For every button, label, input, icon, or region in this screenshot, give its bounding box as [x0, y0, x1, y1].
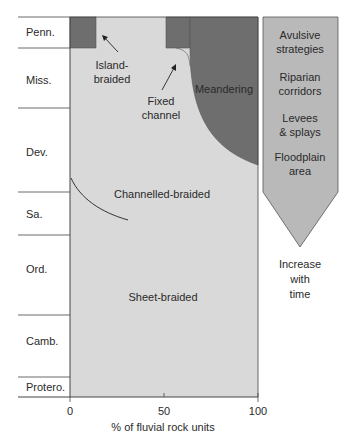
period-label-penn: Penn. [26, 25, 55, 39]
x-tick-label-0: 0 [67, 404, 73, 418]
island-braided-label: Island- braided [94, 58, 131, 86]
meandering-label: Meandering [195, 82, 253, 96]
period-label-dev: Dev. [26, 145, 48, 159]
x-tick-label-100: 100 [249, 404, 267, 418]
fixed-channel-label: Fixed channel [142, 94, 181, 122]
fixed-channel-block [166, 17, 190, 48]
floodplain-area-label: Floodplain area [275, 150, 326, 178]
x-tick-label-50: 50 [158, 404, 170, 418]
channelled-braided-label: Channelled-braided [114, 187, 210, 201]
island-braided-block [70, 17, 96, 48]
x-axis-label: % of fluvial rock units [111, 420, 214, 434]
riparian-corridors-label: Riparian corridors [279, 70, 322, 98]
period-label-sa: Sa. [26, 207, 43, 221]
levees-splays-label: Levees & splays [279, 111, 321, 139]
avulsive-strategies-label: Avulsive strategies [276, 28, 324, 56]
diagram-canvas [0, 0, 353, 443]
sheet-braided-label: Sheet-braided [128, 290, 197, 304]
period-label-protero: Protero. [26, 380, 65, 394]
period-label-camb: Camb. [26, 334, 58, 348]
period-label-miss: Miss. [26, 73, 52, 87]
period-label-ord: Ord. [26, 262, 47, 276]
increase-with-time-label: Increase with time [279, 257, 321, 302]
